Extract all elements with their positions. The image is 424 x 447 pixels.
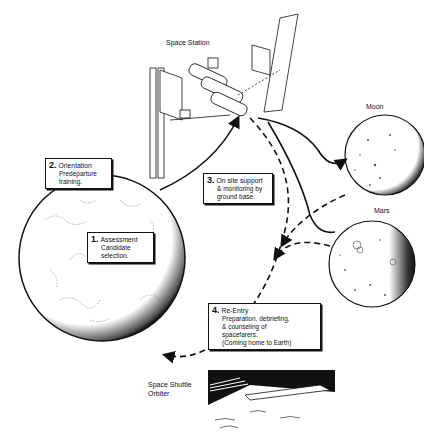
- step-title: Orientation: [59, 162, 92, 169]
- moon-label: Moon: [366, 103, 384, 110]
- step-3-support-box: 3.On site support & monitoring by ground…: [203, 173, 273, 204]
- space-shuttle-label-line1: Space Shuttle: [148, 381, 192, 388]
- step-4-reentry-box: 4.Re-Entry Preparation, debriefing, & co…: [208, 303, 321, 350]
- step-line: selection.: [91, 252, 149, 260]
- mars-globe: [329, 221, 415, 307]
- step-1-assessment-box: 1.Assessment Candidate selection.: [87, 232, 154, 263]
- step-line: spacefarers.: [212, 331, 316, 339]
- mars-label: Mars: [374, 207, 390, 214]
- step-number: 3.: [207, 175, 215, 185]
- step-number: 2.: [49, 160, 57, 170]
- step-line: training.: [49, 178, 107, 186]
- space-station-label: Space Station: [166, 39, 210, 46]
- space-shuttle-illustration: [208, 370, 335, 432]
- moon-globe: [345, 115, 424, 195]
- diagram-artwork: [0, 0, 424, 447]
- space-shuttle-label: Space Shuttle Orbiter: [148, 380, 192, 398]
- step-line: (Coming home to Earth): [212, 339, 316, 347]
- step-line: Candidate: [91, 244, 149, 252]
- space-shuttle-label-line2: Orbiter: [148, 390, 169, 397]
- step-title: Assessment: [101, 236, 138, 243]
- step-title: On site support: [217, 177, 263, 184]
- step-line: & counseling of: [212, 323, 316, 331]
- step-line: & monitoring by: [207, 185, 268, 193]
- step-line: Preparation, debriefing,: [212, 315, 316, 323]
- step-line: Predeparture: [49, 170, 107, 178]
- step-title: Re-Entry: [222, 307, 249, 314]
- step-2-orientation-box: 2.Orientation Predeparture training.: [45, 158, 112, 189]
- step-number: 4.: [212, 305, 220, 315]
- step-number: 1.: [91, 234, 99, 244]
- step-line: ground base.: [207, 193, 268, 201]
